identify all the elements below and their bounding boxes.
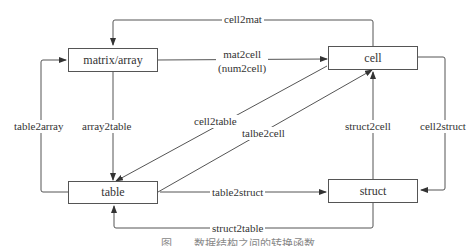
label-mat2cell: mat2cell (num2cell)	[216, 47, 268, 75]
label-array2table: array2table	[80, 120, 133, 133]
label-table2array: table2array	[12, 120, 65, 133]
label-table2struct: table2struct	[210, 186, 265, 199]
node-cell: cell	[328, 46, 418, 70]
node-matrix-array: matrix/array	[68, 48, 158, 72]
node-struct: struct	[328, 179, 418, 203]
figure-caption: 图 数据结构之间的转换函数	[0, 238, 476, 246]
label-struct2cell: struct2cell	[343, 120, 393, 133]
label-cell2struct: cell2struct	[418, 120, 468, 133]
label-cell2mat: cell2mat	[222, 13, 264, 26]
label-cell2table: cell2table	[192, 115, 239, 128]
label-mat2cell-line1: mat2cell	[223, 48, 261, 60]
label-mat2cell-line2: (num2cell)	[218, 62, 266, 74]
node-table: table	[68, 181, 158, 204]
label-struct2table: struct2table	[210, 222, 265, 235]
label-talbe2cell: talbe2cell	[240, 127, 287, 140]
